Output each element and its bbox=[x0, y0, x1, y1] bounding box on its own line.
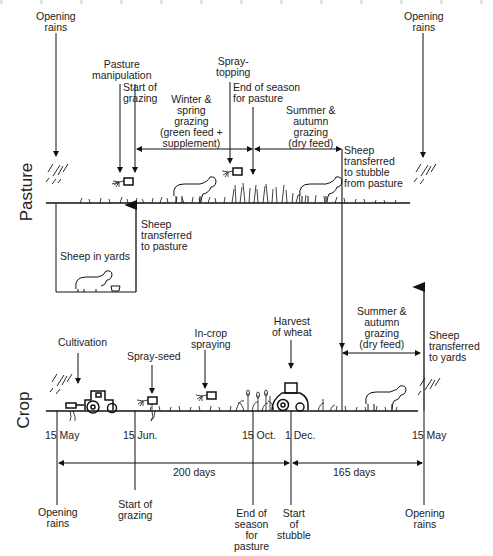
sheep-icon bbox=[366, 386, 406, 411]
date-15-oct: 15 Oct. bbox=[242, 430, 276, 441]
label-sheep-in-yards: Sheep in yards bbox=[60, 251, 130, 262]
label-in-crop-spraying: In-crop spraying bbox=[191, 328, 231, 350]
date-15-may-start: 15 May bbox=[45, 430, 79, 441]
sheep-icon bbox=[300, 177, 342, 203]
bottom-start-of-grazing: Start of grazing bbox=[118, 499, 152, 521]
label-end-of-season: End of season for pasture bbox=[233, 82, 300, 104]
bottom-start-of-stubble: Start of stubble bbox=[277, 508, 311, 541]
label-harvest-of-wheat: Harvest of wheat bbox=[272, 316, 312, 338]
label-spray-seed: Spray-seed bbox=[127, 351, 181, 362]
label-start-of-grazing: Start of grazing bbox=[123, 82, 157, 104]
harvester-icon bbox=[272, 383, 308, 411]
date-15-may-end: 15 May bbox=[412, 430, 446, 441]
sheep-icon bbox=[76, 271, 112, 292]
bottom-opening-rains-right: Opening rains bbox=[405, 508, 445, 530]
label-opening-rains-right: Opening rains bbox=[404, 11, 444, 33]
bottom-end-of-season: End of season for pasture bbox=[234, 508, 269, 552]
duration-200-days: 200 days bbox=[173, 467, 216, 478]
feed-trough-icon bbox=[111, 286, 120, 291]
crop-side-label: Crop bbox=[14, 392, 34, 429]
label-summer-autumn-pasture: Summer & autumn grazing (dry feed) bbox=[286, 105, 336, 149]
label-summer-autumn-crop: Summer & autumn grazing (dry feed) bbox=[357, 306, 407, 350]
label-winter-spring-grazing: Winter & spring grazing (green feed + su… bbox=[160, 94, 223, 149]
date-1-dec: 1 Dec. bbox=[285, 430, 315, 441]
label-sheep-to-stubble: Sheep transferred to stubble from pastur… bbox=[344, 145, 403, 189]
label-sheep-to-yards: Sheep transferred to yards bbox=[429, 330, 480, 363]
label-pasture-manipulation: Pasture manipulation bbox=[92, 59, 152, 81]
pasture-side-label: Pasture bbox=[17, 163, 37, 222]
label-opening-rains-left: Opening rains bbox=[36, 11, 76, 33]
tractor-icon bbox=[66, 391, 117, 421]
bottom-opening-rains-left: Opening rains bbox=[38, 507, 78, 529]
date-15-jun: 15 Jun. bbox=[123, 430, 157, 441]
duration-165-days: 165 days bbox=[333, 467, 376, 478]
label-spray-topping: Spray- topping bbox=[216, 56, 250, 78]
label-cultivation: Cultivation bbox=[58, 337, 107, 348]
label-sheep-to-pasture: Sheep transferred to pasture bbox=[141, 219, 192, 252]
